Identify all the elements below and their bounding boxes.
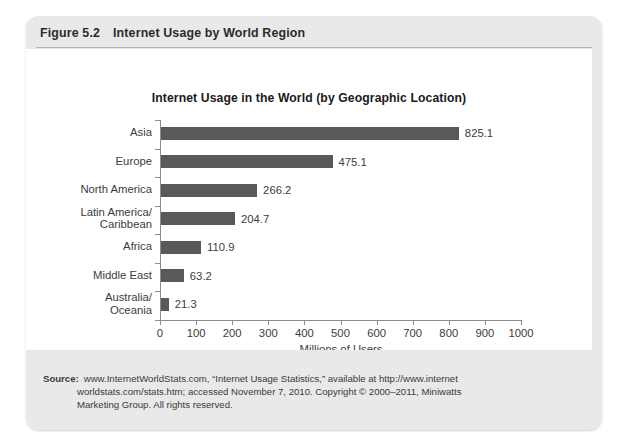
- x-axis-tick: [413, 320, 414, 325]
- source-text-1: www.InternetWorldStats.com, “Internet Us…: [84, 373, 458, 384]
- y-axis-tick: [155, 263, 160, 264]
- bar: [161, 241, 201, 254]
- bar: [161, 184, 257, 197]
- y-axis-tick: [155, 291, 160, 292]
- y-axis-tick: [155, 177, 160, 178]
- x-axis-tick: [449, 320, 450, 325]
- y-axis-tick: [155, 234, 160, 235]
- figure-header-text: Figure 5.2Internet Usage by World Region: [40, 23, 305, 41]
- x-axis-tick: [521, 320, 522, 325]
- category-label: Africa: [28, 240, 152, 253]
- x-axis-tick-label: 700: [393, 327, 433, 339]
- source-note: Source:www.InternetWorldStats.com, “Inte…: [26, 350, 602, 430]
- figure-number: Figure 5.2: [40, 26, 100, 40]
- category-label: Middle East: [28, 269, 152, 282]
- bar-value-label: 21.3: [175, 298, 197, 310]
- category-label: Latin America/ Caribbean: [28, 206, 152, 231]
- x-axis-tick-label: 0: [140, 327, 180, 339]
- source-note-text: Source:www.InternetWorldStats.com, “Inte…: [43, 368, 563, 411]
- x-axis-tick-label: 400: [284, 327, 324, 339]
- x-axis-tick: [341, 320, 342, 325]
- figure-card: Figure 5.2Internet Usage by World Region…: [26, 16, 602, 430]
- bar: [161, 155, 333, 168]
- source-text-3: Marketing Group. All rights reserved.: [77, 399, 563, 412]
- x-axis-tick: [268, 320, 269, 325]
- bar-value-label: 266.2: [263, 184, 291, 196]
- x-axis-tick-label: 900: [465, 327, 505, 339]
- source-text-2: worldstats.com/stats.htm; accessed Novem…: [77, 386, 563, 399]
- bar-value-label: 63.2: [190, 270, 212, 282]
- y-axis-tick: [155, 149, 160, 150]
- x-axis-tick: [377, 320, 378, 325]
- bar-value-label: 475.1: [339, 156, 367, 168]
- figure-header: Figure 5.2Internet Usage by World Region: [26, 16, 602, 48]
- bar-value-label: 204.7: [241, 213, 269, 225]
- y-axis-tick: [155, 120, 160, 121]
- bar-value-label: 110.9: [207, 241, 234, 253]
- x-axis-tick-label: 600: [357, 327, 397, 339]
- bar: [161, 212, 235, 225]
- figure-caption: Internet Usage by World Region: [113, 26, 305, 40]
- source-line-1: Source:www.InternetWorldStats.com, “Inte…: [43, 368, 563, 386]
- x-axis-tick-label: 800: [429, 327, 469, 339]
- x-axis-tick-label: 100: [176, 327, 216, 339]
- bar-value-label: 825.1: [465, 127, 493, 139]
- bar: [161, 269, 184, 282]
- source-label: Source:: [43, 373, 79, 384]
- bar: [161, 298, 169, 311]
- category-label: Europe: [28, 155, 152, 168]
- x-axis-tick-label: 1000: [501, 327, 541, 339]
- category-label: Asia: [28, 126, 152, 139]
- bar: [161, 127, 459, 140]
- y-axis-tick: [155, 206, 160, 207]
- x-axis-tick-label: 300: [248, 327, 288, 339]
- x-axis-tick: [485, 320, 486, 325]
- chart-panel: Internet Usage in the World (by Geograph…: [26, 49, 592, 350]
- x-axis-tick: [232, 320, 233, 325]
- x-axis-tick-label: 500: [321, 327, 361, 339]
- bar-chart: Asia825.1Europe475.1North America266.2La…: [26, 49, 592, 350]
- category-label: North America: [28, 183, 152, 196]
- x-axis-tick-label: 200: [212, 327, 252, 339]
- x-axis-tick: [196, 320, 197, 325]
- x-axis-tick: [160, 320, 161, 325]
- x-axis-tick: [304, 320, 305, 325]
- category-label: Australia/ Oceania: [28, 291, 152, 316]
- header-divider: [36, 47, 592, 48]
